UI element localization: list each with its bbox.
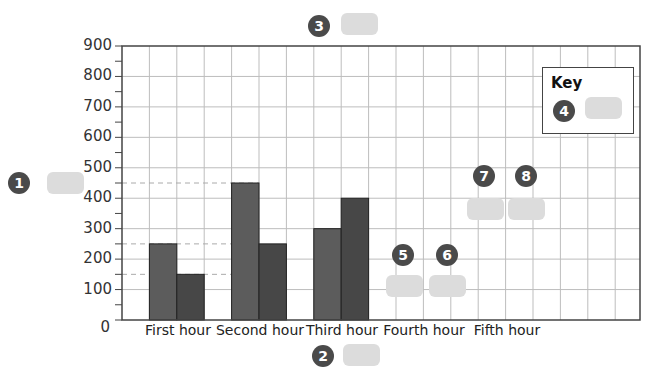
fourth-hour-bar-b-blank[interactable]: [429, 275, 466, 297]
y-tick-label: 300: [52, 219, 112, 237]
fourth-hour-bar-a-blank[interactable]: [386, 275, 423, 297]
bar: [149, 244, 176, 320]
badge-1: 1: [8, 172, 30, 194]
badge-5: 5: [392, 244, 414, 266]
bar: [259, 244, 286, 320]
badge-4: 4: [553, 100, 575, 122]
y-axis-label-blank[interactable]: [47, 172, 84, 194]
badge-2: 2: [312, 345, 334, 367]
y-tick-label: 900: [52, 36, 112, 54]
key-title: Key: [551, 74, 582, 92]
bar: [232, 183, 259, 320]
chart-stage: 0100200300400500600700800900 First hourS…: [0, 0, 655, 376]
bar: [341, 198, 368, 320]
x-category-label: Fifth hour: [452, 322, 562, 338]
bar: [177, 274, 204, 320]
y-tick-label: 0: [50, 318, 110, 336]
badge-8: 8: [515, 165, 537, 187]
badge-7: 7: [473, 165, 495, 187]
y-tick-label: 600: [52, 127, 112, 145]
title-blank[interactable]: [341, 13, 378, 35]
y-tick-label: 800: [52, 66, 112, 84]
bar: [314, 229, 341, 320]
key-entry-blank[interactable]: [585, 97, 622, 119]
x-axis-label-blank[interactable]: [343, 344, 380, 366]
fifth-hour-bar-a-blank[interactable]: [467, 198, 504, 220]
y-tick-label: 700: [52, 97, 112, 115]
y-tick-label: 200: [52, 249, 112, 267]
badge-6: 6: [436, 244, 458, 266]
fifth-hour-bar-b-blank[interactable]: [508, 198, 545, 220]
badge-3: 3: [308, 15, 330, 37]
y-tick-label: 100: [52, 280, 112, 298]
